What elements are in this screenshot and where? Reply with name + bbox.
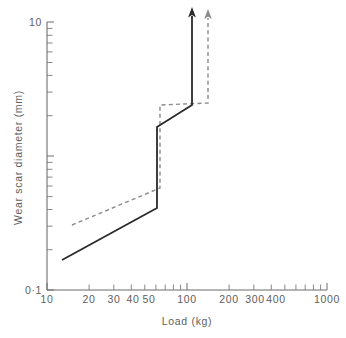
y-ticklabel-bottom: 0·1: [25, 284, 42, 296]
x-ticklabel-20: 20: [83, 293, 96, 305]
dashed-arrow-icon: [204, 9, 212, 19]
y-axis-title: Wear scar diameter (mm): [12, 90, 24, 225]
dashed-curve-path: [72, 18, 208, 225]
x-ticklabel-50: 50: [143, 293, 156, 305]
x-axis-ticks: [47, 283, 327, 290]
x-ticklabel-10: 10: [41, 293, 54, 305]
x-ticklabel-200: 200: [219, 293, 238, 305]
solid-arrow-icon: [188, 7, 196, 18]
y-ticklabel-top: 10: [29, 16, 42, 28]
x-ticklabel-1000: 1000: [314, 293, 340, 305]
dashed-series-group: [72, 9, 212, 225]
y-axis-ticks: [47, 22, 54, 290]
x-ticklabel-100: 100: [177, 293, 196, 305]
wear-scar-load-chart: 10 0·1 Wear scar diameter (mm): [0, 0, 346, 338]
x-ticklabel-400: 400: [266, 293, 285, 305]
solid-series-group: [62, 7, 196, 260]
x-axis-title: Load (kg): [162, 315, 213, 327]
x-ticklabel-300: 300: [245, 293, 264, 305]
solid-curve-path: [62, 16, 192, 260]
axis-lines: [47, 22, 327, 290]
x-ticklabel-40: 40: [127, 293, 140, 305]
x-ticklabel-30: 30: [108, 293, 121, 305]
chart-container: 10 0·1 Wear scar diameter (mm): [0, 0, 346, 338]
